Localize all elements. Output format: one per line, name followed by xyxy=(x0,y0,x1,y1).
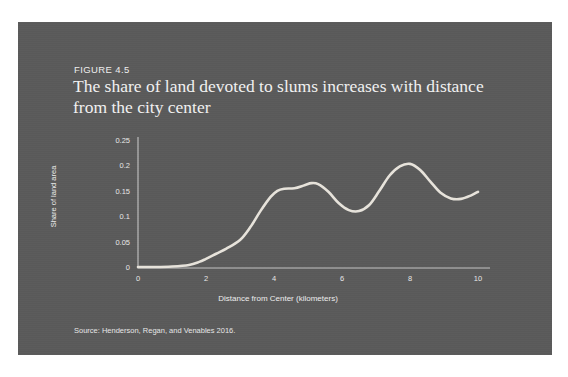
source-note: Source: Henderson, Regan, and Venables 2… xyxy=(74,326,235,335)
figure-panel: FIGURE 4.5 The share of land devoted to … xyxy=(18,22,552,355)
series-line-share-of-land-area xyxy=(138,164,478,267)
x-tick-label: 10 xyxy=(468,274,488,283)
y-tick-label: 0.15 xyxy=(96,187,130,196)
y-tick-label: 0 xyxy=(96,263,130,272)
chart-plot-area: Share of land area Distance from Center … xyxy=(18,22,552,355)
y-tick-label: 0.05 xyxy=(96,238,130,247)
y-tick-label: 0.25 xyxy=(96,136,130,145)
x-tick-label: 8 xyxy=(400,274,420,283)
x-tick-label: 6 xyxy=(332,274,352,283)
x-tick-label: 4 xyxy=(264,274,284,283)
chart-axes xyxy=(138,137,490,268)
x-tick-label: 2 xyxy=(196,274,216,283)
y-tick-label: 0.1 xyxy=(96,212,130,221)
y-tick-label: 0.2 xyxy=(96,161,130,170)
x-tick-label: 0 xyxy=(128,274,148,283)
